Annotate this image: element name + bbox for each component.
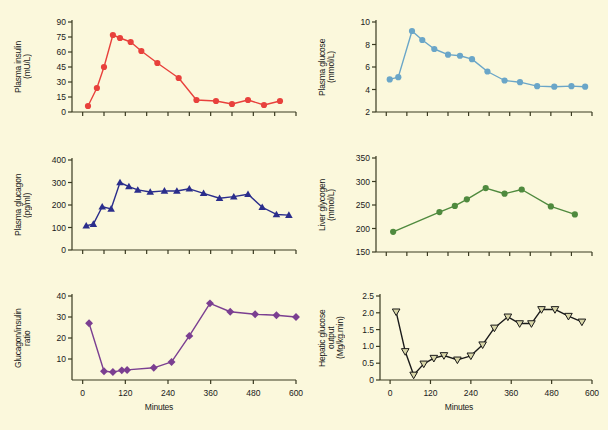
plot-svg-plasma-glucagon: 0100200300400	[14, 152, 304, 278]
svg-text:15: 15	[57, 92, 67, 102]
svg-text:10: 10	[57, 354, 67, 364]
svg-text:400: 400	[52, 155, 66, 165]
data-line-plasma-insulin	[88, 35, 280, 106]
svg-text:120: 120	[423, 388, 437, 398]
svg-text:10: 10	[361, 17, 371, 27]
svg-text:360: 360	[504, 388, 518, 398]
plot-svg-hepatic-glucose-output: 00.51.01.52.02.50120240360480600	[318, 288, 600, 420]
svg-text:60: 60	[57, 47, 67, 57]
svg-text:0: 0	[61, 107, 66, 117]
plot-svg-glucagon-insulin-ratio: 102030400120240360480600	[14, 288, 304, 420]
svg-text:75: 75	[57, 32, 67, 42]
svg-text:1.0: 1.0	[362, 341, 374, 351]
svg-text:30: 30	[57, 312, 67, 322]
svg-text:360: 360	[204, 388, 218, 398]
svg-text:250: 250	[356, 200, 370, 210]
data-line-liver-glycogen	[393, 188, 575, 232]
plot-svg-plasma-insulin: 0153045607590	[14, 14, 304, 140]
data-markers-plasma-insulin	[85, 32, 283, 109]
chart-panel-plasma-glucagon: Plasma glucagon(pg/ml)0100200300400	[14, 152, 304, 278]
svg-text:300: 300	[356, 177, 370, 187]
svg-text:0: 0	[388, 388, 393, 398]
data-markers-glucagon-insulin-ratio	[85, 299, 300, 376]
chart-panel-liver-glycogen: Liver glycogen(mmol/L)150200250300350	[318, 148, 600, 278]
data-line-glucagon-insulin-ratio	[89, 303, 296, 372]
svg-text:150: 150	[356, 247, 370, 257]
svg-text:600: 600	[585, 388, 599, 398]
svg-text:90: 90	[57, 17, 67, 27]
plot-svg-plasma-glucose: 246810	[318, 14, 600, 140]
svg-text:6: 6	[365, 62, 370, 72]
data-markers-plasma-glucose	[387, 28, 589, 90]
svg-text:240: 240	[464, 388, 478, 398]
svg-text:0: 0	[369, 375, 374, 385]
svg-text:350: 350	[356, 153, 370, 163]
chart-panel-plasma-glucose: Plasma glucose(mmol/L)246810	[318, 14, 600, 140]
svg-text:120: 120	[118, 388, 132, 398]
svg-text:30: 30	[57, 77, 67, 87]
data-markers-plasma-glucagon	[82, 179, 292, 229]
svg-text:600: 600	[289, 388, 303, 398]
svg-text:2: 2	[365, 107, 370, 117]
plot-svg-liver-glycogen: 150200250300350	[318, 148, 600, 278]
chart-panel-hepatic-glucose-output: Hepatic glucoseoutput(Mg/kg.min)00.51.01…	[318, 288, 600, 420]
svg-text:200: 200	[52, 200, 66, 210]
svg-text:4: 4	[365, 85, 370, 95]
svg-text:1.5: 1.5	[362, 325, 374, 335]
svg-text:40: 40	[57, 291, 67, 301]
svg-text:45: 45	[57, 62, 67, 72]
data-line-plasma-glucose	[390, 31, 585, 87]
data-markers-hepatic-glucose-output	[392, 307, 585, 379]
chart-panel-plasma-insulin: Plasma insulin(mU/L)0153045607590	[14, 14, 304, 140]
svg-text:300: 300	[52, 178, 66, 188]
svg-text:480: 480	[545, 388, 559, 398]
svg-text:100: 100	[52, 223, 66, 233]
x-axis-label-glucagon-insulin-ratio: Minutes	[14, 402, 304, 412]
data-markers-liver-glycogen	[390, 185, 578, 235]
svg-text:200: 200	[356, 224, 370, 234]
svg-text:0: 0	[80, 388, 85, 398]
chart-panel-glucagon-insulin-ratio: Glucagon/insulinratio1020304001202403604…	[14, 288, 304, 420]
svg-text:8: 8	[365, 40, 370, 50]
x-axis-label-hepatic-glucose-output: Minutes	[318, 402, 600, 412]
figure-canvas: Plasma insulin(mU/L)0153045607590Plasma …	[0, 0, 608, 430]
svg-text:2.5: 2.5	[362, 291, 374, 301]
svg-text:20: 20	[57, 333, 67, 343]
svg-text:240: 240	[161, 388, 175, 398]
svg-text:2.0: 2.0	[362, 308, 374, 318]
svg-text:0: 0	[61, 245, 66, 255]
svg-text:480: 480	[246, 388, 260, 398]
svg-text:0.5: 0.5	[362, 358, 374, 368]
